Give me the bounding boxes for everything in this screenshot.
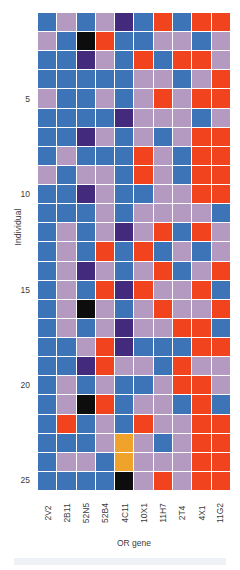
heatmap-cell xyxy=(38,13,56,31)
heatmap-cell xyxy=(96,300,114,318)
heatmap-cell xyxy=(212,32,230,50)
heatmap-cell xyxy=(38,434,56,452)
heatmap-cell xyxy=(77,319,95,337)
heatmap-cell xyxy=(57,223,75,241)
heatmap-cell xyxy=(96,434,114,452)
heatmap-cell xyxy=(173,89,191,107)
x-axis-tick: 4C11 xyxy=(115,492,134,536)
heatmap-cell xyxy=(134,51,152,69)
heatmap-cell xyxy=(57,242,75,260)
heatmap-cell xyxy=(134,109,152,127)
heatmap-cell xyxy=(212,185,230,203)
x-axis-tick-label: 2T4 xyxy=(177,506,187,521)
heatmap-cell xyxy=(38,204,56,222)
heatmap-cell xyxy=(154,109,172,127)
heatmap-cell xyxy=(173,434,191,452)
heatmap-cell xyxy=(173,300,191,318)
heatmap-cell xyxy=(77,281,95,299)
heatmap-cell xyxy=(134,376,152,394)
heatmap-cell xyxy=(134,319,152,337)
heatmap-cell xyxy=(154,415,172,433)
heatmap-cell xyxy=(154,13,172,31)
heatmap-cell xyxy=(212,338,230,356)
heatmap-cell xyxy=(115,434,133,452)
heatmap-cell xyxy=(212,415,230,433)
heatmap-cell xyxy=(77,338,95,356)
heatmap-cell xyxy=(38,51,56,69)
heatmap-cell xyxy=(154,166,172,184)
heatmap-cell xyxy=(57,204,75,222)
heatmap-cell xyxy=(154,395,172,413)
x-axis-title: OR gene xyxy=(38,538,230,548)
heatmap-cell xyxy=(154,185,172,203)
heatmap-cell xyxy=(212,357,230,375)
heatmap-cell xyxy=(96,185,114,203)
heatmap-cell xyxy=(57,128,75,146)
heatmap-cell xyxy=(115,300,133,318)
heatmap-cell xyxy=(173,204,191,222)
x-axis-tick: 2T4 xyxy=(172,492,191,536)
heatmap-cell xyxy=(38,281,56,299)
heatmap-cell xyxy=(154,89,172,107)
heatmap-figure: Individual 2V22B1152N552B44C1110X111H72T… xyxy=(0,0,240,570)
heatmap-cell xyxy=(192,281,210,299)
heatmap-cell xyxy=(57,147,75,165)
heatmap-cell xyxy=(134,434,152,452)
heatmap-cell xyxy=(173,338,191,356)
heatmap-cell xyxy=(38,223,56,241)
heatmap-cell xyxy=(115,338,133,356)
heatmap-cell xyxy=(77,453,95,471)
heatmap-cell xyxy=(134,415,152,433)
heatmap-cell xyxy=(57,51,75,69)
heatmap-cell xyxy=(173,32,191,50)
heatmap-cell xyxy=(57,434,75,452)
heatmap-cell xyxy=(57,109,75,127)
heatmap-cell xyxy=(134,32,152,50)
heatmap-cell xyxy=(77,472,95,490)
heatmap-cell xyxy=(154,434,172,452)
heatmap-cell xyxy=(154,262,172,280)
x-axis-tick: 2B11 xyxy=(57,492,76,536)
heatmap-cell xyxy=(192,453,210,471)
heatmap-cell xyxy=(96,204,114,222)
heatmap-cell xyxy=(212,89,230,107)
y-axis-tick-label: 5 xyxy=(0,94,30,104)
heatmap-cell xyxy=(38,32,56,50)
heatmap-cell xyxy=(38,166,56,184)
heatmap-cell xyxy=(77,395,95,413)
x-axis-tick-label: 11G2 xyxy=(215,503,225,523)
heatmap-cell xyxy=(57,319,75,337)
heatmap-cell xyxy=(134,185,152,203)
heatmap-cell xyxy=(38,109,56,127)
heatmap-cell xyxy=(77,51,95,69)
heatmap-cell xyxy=(173,70,191,88)
heatmap-cell xyxy=(134,357,152,375)
heatmap-cell xyxy=(77,89,95,107)
heatmap-cell xyxy=(115,166,133,184)
heatmap-cell xyxy=(154,51,172,69)
heatmap-cell xyxy=(134,281,152,299)
heatmap-cell xyxy=(192,166,210,184)
heatmap-cell xyxy=(115,415,133,433)
heatmap-cell xyxy=(212,262,230,280)
heatmap-cell xyxy=(134,338,152,356)
heatmap-cell xyxy=(96,415,114,433)
heatmap-cell xyxy=(115,395,133,413)
heatmap-cell xyxy=(77,415,95,433)
heatmap-cell xyxy=(154,204,172,222)
heatmap-cell xyxy=(77,434,95,452)
heatmap-cell xyxy=(154,376,172,394)
heatmap-cell xyxy=(57,166,75,184)
x-axis-tick-label: 11H7 xyxy=(158,503,168,523)
heatmap-cell xyxy=(134,166,152,184)
heatmap-cell xyxy=(115,89,133,107)
x-axis-tick: 2V2 xyxy=(38,492,57,536)
heatmap-cell xyxy=(192,300,210,318)
heatmap-cell xyxy=(96,223,114,241)
heatmap-cell xyxy=(134,242,152,260)
heatmap-cell xyxy=(77,376,95,394)
heatmap-cell xyxy=(192,472,210,490)
x-axis-tick: 52B4 xyxy=(96,492,115,536)
x-axis-tick: 11H7 xyxy=(153,492,172,536)
heatmap-cell xyxy=(96,338,114,356)
